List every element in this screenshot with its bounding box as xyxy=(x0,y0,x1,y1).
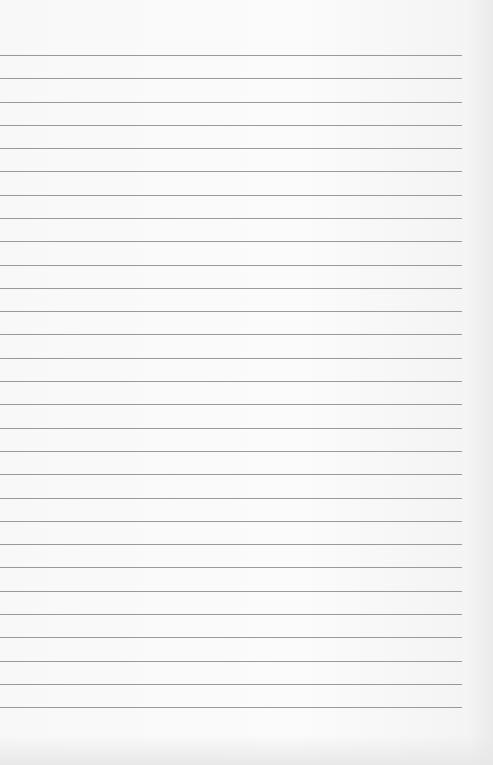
ruled-line xyxy=(0,265,462,266)
ruled-line xyxy=(0,171,462,172)
ruled-line xyxy=(0,125,462,126)
ruled-line xyxy=(0,544,462,545)
ruled-line xyxy=(0,567,462,568)
ruled-line xyxy=(0,614,462,615)
ruled-line xyxy=(0,404,462,405)
ruled-line xyxy=(0,311,462,312)
ruled-line xyxy=(0,684,462,685)
ruled-line xyxy=(0,498,462,499)
ruled-line xyxy=(0,451,462,452)
ruled-line xyxy=(0,707,462,708)
ruled-line xyxy=(0,474,462,475)
lined-paper-sheet xyxy=(0,0,493,765)
ruled-line xyxy=(0,591,462,592)
ruled-line xyxy=(0,218,462,219)
ruled-line xyxy=(0,334,462,335)
ruled-line xyxy=(0,428,462,429)
ruled-line xyxy=(0,102,462,103)
ruled-line xyxy=(0,381,462,382)
ruled-line xyxy=(0,637,462,638)
ruled-line xyxy=(0,288,462,289)
page-bottom-shadow xyxy=(0,735,493,765)
ruled-line xyxy=(0,78,462,79)
ruled-line xyxy=(0,521,462,522)
ruled-line xyxy=(0,148,462,149)
ruled-line xyxy=(0,55,462,56)
ruled-line xyxy=(0,241,462,242)
ruled-line xyxy=(0,358,462,359)
page-edge-shadow xyxy=(468,0,493,765)
ruled-line xyxy=(0,195,462,196)
ruled-line xyxy=(0,661,462,662)
